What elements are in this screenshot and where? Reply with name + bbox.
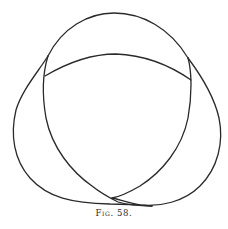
left-outer-lobe bbox=[13, 56, 152, 206]
caption-text: Fig. 58. bbox=[96, 208, 133, 218]
figure-caption: Fig. 58. bbox=[0, 208, 228, 218]
main-circle-left-strand bbox=[44, 56, 152, 206]
main-circle-top-arc bbox=[48, 13, 188, 58]
figure-58: Fig. 58. bbox=[0, 0, 228, 229]
curve-drawing bbox=[0, 0, 228, 229]
main-circle-right-strand bbox=[112, 58, 191, 198]
right-outer-lobe bbox=[112, 58, 221, 205]
inner-top-arc bbox=[45, 54, 191, 80]
